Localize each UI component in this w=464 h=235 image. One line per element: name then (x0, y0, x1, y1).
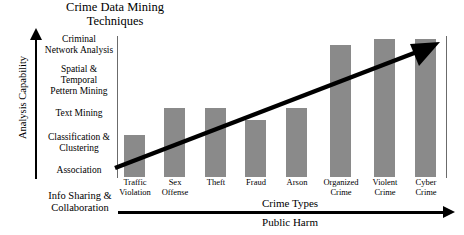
plot-left-divider (117, 36, 118, 178)
bar-sex-offense (164, 108, 185, 177)
x-label-fraud: Fraud (233, 178, 279, 188)
plot-right-divider (446, 36, 447, 178)
y-axis-line (35, 38, 37, 179)
below-axis-line: Info Sharing & (40, 190, 120, 202)
x-axis-sublabel: Public Harm (190, 216, 390, 228)
x-label-line: Fraud (233, 178, 279, 188)
y-axis-label: Analysis Capability (17, 38, 28, 158)
y-tier-criminal-network-analysis: Criminal Network Analysis (44, 34, 114, 56)
x-label-organized-crime: Organized Crime (315, 178, 367, 197)
trend-arrow-icon (110, 28, 455, 183)
x-label-sex-offense: Sex Offense (152, 178, 198, 197)
info-sharing-collaboration-label: Info Sharing & Collaboration (40, 190, 120, 214)
bar-violent-crime (374, 39, 395, 177)
x-label-line: Offense (152, 188, 198, 198)
bar-arson (286, 108, 307, 177)
y-tier-classification-clustering: Classification & Clustering (44, 132, 114, 154)
x-label-arson: Arson (274, 178, 320, 188)
below-axis-line: Collaboration (40, 202, 120, 214)
y-tier-text-mining: Text Mining (44, 108, 114, 119)
y-tier-line: Clustering (44, 143, 114, 154)
x-label-line: Crime (362, 188, 408, 198)
chart-title-line-2: Techniques (20, 15, 210, 29)
y-tier-line: Association (44, 165, 114, 176)
chart-title-line-1: Crime Data Mining (20, 1, 210, 15)
x-label-violent-crime: Violent Crime (362, 178, 408, 197)
x-label-cyber-crime: Cyber Crime (403, 178, 449, 197)
x-axis-arrowhead-icon (443, 206, 455, 218)
bar-fraud (245, 120, 266, 177)
x-axis-label: Crime Types (190, 197, 390, 209)
y-tier-line: Text Mining (44, 108, 114, 119)
bar-traffic-violation (124, 135, 145, 177)
bar-organized-crime (330, 45, 351, 177)
x-label-line: Crime (315, 188, 367, 198)
y-tier-line: Classification & (44, 132, 114, 143)
x-axis-line (118, 211, 445, 214)
y-tier-line: Network Analysis (44, 45, 114, 56)
x-label-line: Crime (403, 188, 449, 198)
y-tier-line: Spatial & (44, 64, 114, 75)
y-tier-line: Temporal (44, 75, 114, 86)
y-tier-spatial-temporal-pattern-mining: Spatial & Temporal Pettern Mining (44, 64, 114, 97)
y-tier-line: Criminal (44, 34, 114, 45)
y-tier-line: Pettern Mining (44, 86, 114, 97)
y-tier-association: Association (44, 165, 114, 176)
bar-theft (205, 108, 226, 177)
x-label-line: Arson (274, 178, 320, 188)
bar-cyber-crime (415, 39, 436, 177)
chart-figure: Crime Data Mining Techniques Analysis Ca… (0, 0, 464, 235)
chart-title: Crime Data Mining Techniques (20, 1, 210, 28)
